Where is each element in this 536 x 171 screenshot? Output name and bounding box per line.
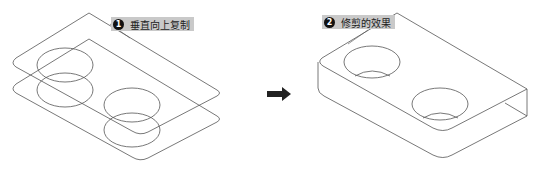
hole-left <box>344 46 400 78</box>
hole-right-inner <box>423 113 458 118</box>
diagram-canvas <box>0 0 536 171</box>
right-drawing-trimmed-plate <box>318 13 527 158</box>
left-drawing-copied-plates <box>13 13 220 160</box>
lower-hole-left <box>37 73 93 107</box>
step-1-badge: 1 <box>113 19 124 30</box>
hole-left-inner <box>355 71 390 76</box>
step-2-badge: 2 <box>324 17 335 28</box>
upper-hole-right <box>104 88 160 122</box>
step-1-text: 垂直向上复制 <box>130 17 190 32</box>
upper-hole-left <box>37 48 93 82</box>
hole-right <box>412 88 468 120</box>
plate-inner-edge <box>505 103 527 116</box>
right-arrow-icon <box>267 87 291 101</box>
step-2-label: 2 修剪的效果 <box>322 15 395 29</box>
step-1-label: 1 垂直向上复制 <box>111 17 194 31</box>
plate-bottom-edge <box>318 88 527 158</box>
step-2-text: 修剪的效果 <box>341 15 391 30</box>
lower-plate-outline <box>13 39 220 160</box>
plate-top-face <box>320 13 527 131</box>
leader-line-2 <box>348 30 368 44</box>
